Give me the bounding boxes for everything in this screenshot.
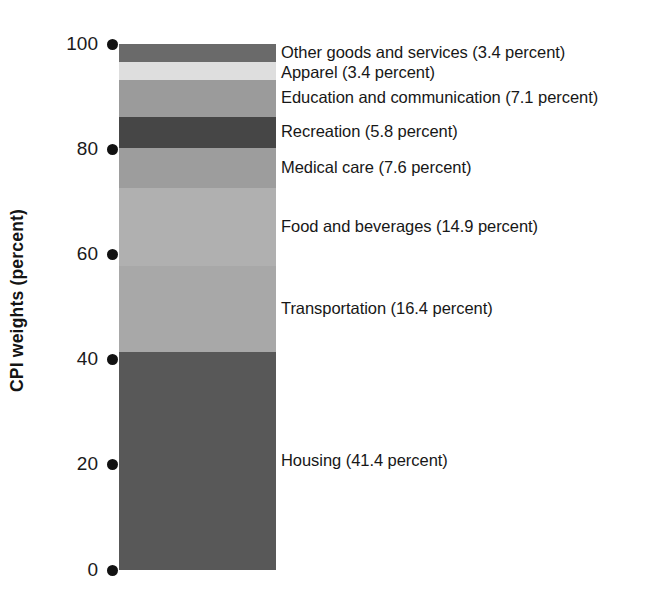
bar-segment-apparel: [119, 62, 276, 80]
segment-label-other-goods-and-services: Other goods and services (3.4 percent): [281, 44, 565, 61]
y-axis-tick-label: 0: [87, 560, 98, 579]
segment-label-education-and-communication: Education and communication (7.1 percent…: [281, 89, 598, 106]
bar-segment-food-and-beverages: [119, 188, 276, 266]
y-axis-tick-dot-icon: [107, 249, 118, 260]
y-axis-tick-label: 40: [77, 349, 98, 368]
bar-segment-transportation: [119, 266, 276, 352]
y-axis-title: CPI weights (percent): [0, 162, 34, 392]
segment-label-apparel: Apparel (3.4 percent): [281, 64, 435, 81]
bar-segment-education-and-communication: [119, 80, 276, 117]
y-axis-tick-label: 100: [66, 34, 98, 53]
segment-label-food-and-beverages: Food and beverages (14.9 percent): [281, 218, 538, 235]
segment-label-medical-care: Medical care (7.6 percent): [281, 159, 471, 176]
bar-segment-housing: [119, 352, 276, 570]
y-axis-tick-dot-icon: [107, 354, 118, 365]
y-axis-tick-dot-icon: [107, 459, 118, 470]
bar-segment-medical-care: [119, 148, 276, 188]
y-axis-tick-label: 80: [77, 139, 98, 158]
bar-segment-recreation: [119, 117, 276, 148]
segment-label-housing: Housing (41.4 percent): [281, 452, 448, 469]
segment-label-transportation: Transportation (16.4 percent): [281, 300, 493, 317]
y-axis-tick-label: 20: [77, 454, 98, 473]
segment-label-recreation: Recreation (5.8 percent): [281, 123, 458, 140]
bar-segment-other-goods-and-services: [119, 44, 276, 62]
y-axis-tick-dot-icon: [107, 144, 118, 155]
y-axis-tick-label: 60: [77, 244, 98, 263]
cpi-weights-stacked-bar-chart: CPI weights (percent) 100806040200 Other…: [0, 0, 648, 612]
y-axis-tick-dot-icon: [107, 39, 118, 50]
y-axis-tick-dot-icon: [107, 565, 118, 576]
stacked-bar: [119, 44, 276, 570]
